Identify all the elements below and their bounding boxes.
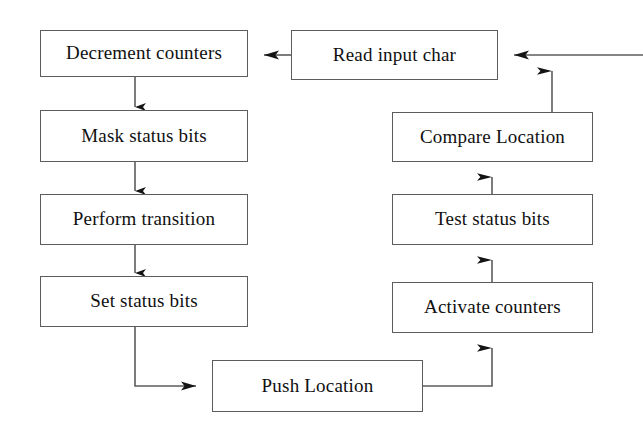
node-label: Compare Location [420,127,565,146]
node-label: Read input char [333,45,456,64]
node-mask-status-bits[interactable]: Mask status bits [40,110,248,162]
node-compare-location[interactable]: Compare Location [392,112,593,162]
node-label: Test status bits [435,209,550,228]
node-set-status-bits[interactable]: Set status bits [40,276,248,327]
node-label: Decrement counters [66,43,222,62]
node-label: Set status bits [90,291,198,310]
node-label: Activate counters [424,297,561,316]
node-label: Perform transition [73,209,215,228]
flowchart-canvas: Decrement counters Mask status bits Perf… [0,0,643,439]
node-test-status-bits[interactable]: Test status bits [392,194,593,245]
node-push-location[interactable]: Push Location [212,360,423,412]
edge-push-to-activate [423,348,492,386]
node-read-input-char[interactable]: Read input char [291,30,498,80]
node-decrement-counters[interactable]: Decrement counters [40,30,248,77]
node-activate-counters[interactable]: Activate counters [392,282,593,333]
node-label: Mask status bits [81,126,207,145]
node-perform-transition[interactable]: Perform transition [40,194,248,245]
node-label: Push Location [262,376,374,395]
edge-set-to-push [135,327,196,386]
